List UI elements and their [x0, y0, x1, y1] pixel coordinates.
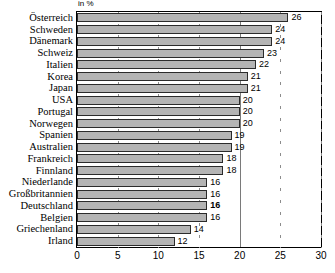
bar-value-label: 16	[210, 190, 220, 199]
bar-spanien	[77, 131, 232, 140]
x-tick-30: 30	[315, 250, 326, 262]
category-label-korea: Korea	[0, 71, 73, 82]
bar-value-label: 20	[243, 119, 253, 128]
bar-value-label: 16	[210, 201, 220, 210]
x-tick-5: 5	[115, 250, 121, 262]
bar--sterreich	[77, 13, 288, 22]
bar-belgien	[77, 213, 207, 222]
plot-area: 2624242322212120202019191818161616161412	[76, 11, 322, 248]
tick-mark-30	[321, 235, 322, 238]
x-tick-15: 15	[193, 250, 204, 262]
bar-row: 18	[77, 166, 321, 175]
bar-schweden	[77, 25, 272, 34]
bar-korea	[77, 72, 248, 81]
category-label-frankreich: Frankreich	[0, 153, 73, 164]
bar-row: 20	[77, 96, 321, 105]
tick-mark-30	[321, 82, 322, 85]
bar-japan	[77, 84, 248, 93]
bar-series: 2624242322212120202019191818161616161412	[77, 12, 321, 247]
tick-mark-30	[321, 35, 322, 38]
category-label-usa: USA	[0, 94, 73, 105]
bar-row: 16	[77, 178, 321, 187]
bar-frankreich	[77, 154, 223, 163]
bar-row: 14	[77, 225, 321, 234]
bar-value-label: 21	[251, 72, 261, 81]
bar-finnland	[77, 166, 223, 175]
tick-mark-30	[321, 129, 322, 132]
bar-usa	[77, 96, 240, 105]
bar-value-label: 21	[251, 84, 261, 93]
bar-row: 16	[77, 201, 321, 210]
tick-mark-30	[321, 200, 322, 203]
bar-irland	[77, 237, 175, 246]
category-label-deutschland: Deutschland	[0, 200, 73, 211]
bar-portugal	[77, 107, 240, 116]
bar-row: 26	[77, 13, 321, 22]
bar-italien	[77, 60, 256, 69]
category-label--sterreich: Österreich	[0, 12, 73, 23]
bar-niederlande	[77, 178, 207, 187]
bar-australien	[77, 143, 232, 152]
value-axis-labels: 051015202530	[0, 250, 335, 266]
tick-mark-30	[321, 71, 322, 74]
bar-value-label: 23	[267, 49, 277, 58]
category-label-australien: Australien	[0, 141, 73, 152]
bar-griechenland	[77, 225, 191, 234]
category-label-d-nemark: Dänemark	[0, 35, 73, 46]
category-label-irland: Irland	[0, 235, 73, 246]
bar-schweiz	[77, 49, 264, 58]
bar-value-label: 26	[291, 13, 301, 22]
category-label-schweden: Schweden	[0, 24, 73, 35]
tick-mark-30	[321, 165, 322, 168]
bar-chart: in % ÖsterreichSchwedenDänemarkSchweizIt…	[0, 0, 335, 273]
bar-value-label: 18	[226, 166, 236, 175]
category-label-belgien: Belgien	[0, 212, 73, 223]
tick-mark-30	[321, 12, 322, 15]
bar-deutschland	[77, 201, 207, 210]
bar-row: 22	[77, 60, 321, 69]
tick-mark-30	[321, 188, 322, 191]
bar-row: 20	[77, 107, 321, 116]
bar-row: 21	[77, 84, 321, 93]
x-tick-0: 0	[74, 250, 80, 262]
bar-value-label: 24	[275, 37, 285, 46]
tick-mark-30	[321, 106, 322, 109]
category-label-gro-britannien: Großbritannien	[0, 188, 73, 199]
bar-row: 24	[77, 37, 321, 46]
bar-value-label: 22	[259, 60, 269, 69]
tick-mark-30	[321, 176, 322, 179]
bar-value-label: 20	[243, 107, 253, 116]
category-label-norwegen: Norwegen	[0, 118, 73, 129]
bar-value-label: 16	[210, 213, 220, 222]
bar-value-label: 14	[194, 225, 204, 234]
bar-row: 19	[77, 143, 321, 152]
bar-row: 12	[77, 237, 321, 246]
category-label-spanien: Spanien	[0, 129, 73, 140]
tick-mark-30	[321, 141, 322, 144]
bar-value-label: 18	[226, 154, 236, 163]
bar-norwegen	[77, 119, 240, 128]
category-label-portugal: Portugal	[0, 106, 73, 117]
bar-d-nemark	[77, 37, 272, 46]
bar-row: 16	[77, 213, 321, 222]
tick-mark-30	[321, 47, 322, 50]
bar-row: 24	[77, 25, 321, 34]
category-label-griechenland: Griechenland	[0, 223, 73, 234]
bar-gro-britannien	[77, 190, 207, 199]
tick-mark-30	[321, 118, 322, 121]
bar-value-label: 12	[178, 237, 188, 246]
category-label-niederlande: Niederlande	[0, 176, 73, 187]
tick-mark-30	[321, 153, 322, 156]
tick-mark-30	[321, 94, 322, 97]
category-label-italien: Italien	[0, 59, 73, 70]
bar-value-label: 20	[243, 96, 253, 105]
unit-caption: in %	[78, 0, 94, 9]
bar-value-label: 19	[235, 143, 245, 152]
x-tick-10: 10	[153, 250, 164, 262]
tick-mark-30	[321, 223, 322, 226]
bar-value-label: 16	[210, 178, 220, 187]
x-tick-25: 25	[275, 250, 286, 262]
bar-row: 19	[77, 131, 321, 140]
bar-row: 16	[77, 190, 321, 199]
tick-mark-30	[321, 212, 322, 215]
